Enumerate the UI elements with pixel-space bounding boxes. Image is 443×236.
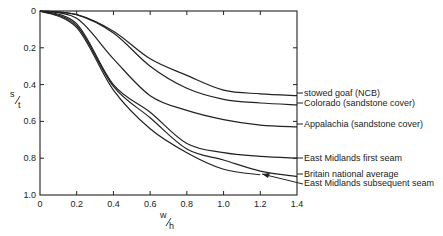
series-label: East Midlands first seam bbox=[304, 153, 402, 163]
series-label: East Midlands subsequent seam bbox=[304, 178, 434, 188]
axis-ticks: 00.20.40.60.81.01.21.400.20.40.60.81.0 bbox=[23, 6, 303, 209]
y-tick-label: 0 bbox=[31, 6, 36, 16]
x-tick-label: 1.0 bbox=[217, 199, 230, 209]
x-tick-label: 1.2 bbox=[254, 199, 267, 209]
series-line bbox=[40, 11, 297, 96]
y-axis-label-den: t bbox=[18, 100, 21, 110]
series-label: Colorado (sandstone cover) bbox=[304, 98, 415, 108]
x-tick-label: 0 bbox=[37, 199, 42, 209]
series-labels: stowed goaf (NCB)Colorado (sandstone cov… bbox=[262, 88, 434, 188]
x-tick-label: 0.8 bbox=[181, 199, 194, 209]
x-tick-label: 0.6 bbox=[144, 199, 157, 209]
y-axis-label: s t bbox=[10, 89, 21, 110]
series-line bbox=[40, 11, 260, 175]
y-tick-label: 0.6 bbox=[23, 116, 36, 126]
x-axis-label-num: w bbox=[159, 210, 167, 220]
x-tick-label: 0.4 bbox=[107, 199, 120, 209]
x-tick-label: 1.4 bbox=[291, 199, 304, 209]
series-curves bbox=[40, 11, 297, 177]
series-label: Appalachia (sandstone cover) bbox=[304, 119, 423, 129]
subsidence-profile-chart: 00.20.40.60.81.01.21.400.20.40.60.81.0 s… bbox=[0, 0, 443, 236]
x-axis-label-den: h bbox=[169, 221, 174, 231]
y-tick-label: 0.4 bbox=[23, 80, 36, 90]
y-tick-label: 0.8 bbox=[23, 153, 36, 163]
y-tick-label: 1.0 bbox=[23, 190, 36, 200]
series-label: stowed goaf (NCB) bbox=[304, 88, 380, 98]
x-axis-label: w h bbox=[159, 210, 174, 231]
arrowhead-icon bbox=[262, 173, 270, 178]
x-tick-label: 0.2 bbox=[70, 199, 83, 209]
y-tick-label: 0.2 bbox=[23, 43, 36, 53]
series-line bbox=[40, 11, 297, 158]
y-axis-label-num: s bbox=[10, 89, 15, 99]
